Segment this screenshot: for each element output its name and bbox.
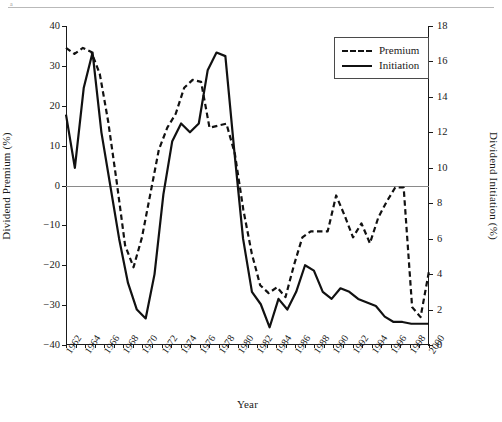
x-axis-title: Year [237, 398, 258, 410]
legend-label-initiation: Initiation [379, 60, 419, 71]
left-axis-tick-label: −20 [20, 260, 60, 271]
figure-container: a −40−30−20−10010203040 024681012141618 … [0, 0, 502, 422]
legend-item-premium: Premium [342, 43, 419, 58]
solid-line-swatch-icon [342, 65, 372, 67]
left-axis-tick-label: 40 [20, 21, 60, 32]
legend-label-premium: Premium [379, 45, 419, 56]
right-axis-tick-label: 14 [437, 92, 477, 103]
legend-item-initiation: Initiation [342, 58, 419, 73]
left-axis-tick-label: −10 [20, 220, 60, 231]
right-axis-title: Dividend Initiation (%) [488, 132, 500, 240]
left-axis-tick-label: 0 [20, 181, 60, 192]
top-rule-mark: a [10, 1, 13, 7]
left-axis-tick-label: 10 [20, 141, 60, 152]
right-axis-tick-label: 18 [437, 21, 477, 32]
dashed-line-swatch-icon [342, 50, 372, 52]
right-axis-tick-label: 16 [437, 56, 477, 67]
series-line-premium [66, 48, 429, 317]
legend: Premium Initiation [334, 37, 429, 79]
plot-area: −40−30−20−10010203040 024681012141618 19… [66, 26, 429, 345]
right-axis-tick-label: 8 [437, 198, 477, 209]
right-axis-tick-label: 10 [437, 163, 477, 174]
left-axis-tick-label: −30 [20, 300, 60, 311]
series-line-initiation [66, 53, 429, 328]
right-axis-tick-label: 6 [437, 234, 477, 245]
top-rule-divider [8, 7, 494, 8]
left-axis-tick-label: 20 [20, 101, 60, 112]
left-axis-tick-label: −40 [20, 340, 60, 351]
right-axis-tick-label: 2 [437, 305, 477, 316]
right-axis-tick-label: 4 [437, 269, 477, 280]
left-axis-tick-label: 30 [20, 61, 60, 72]
right-axis-tick-label: 12 [437, 127, 477, 138]
left-axis-title: Dividend Premium (%) [0, 132, 12, 239]
